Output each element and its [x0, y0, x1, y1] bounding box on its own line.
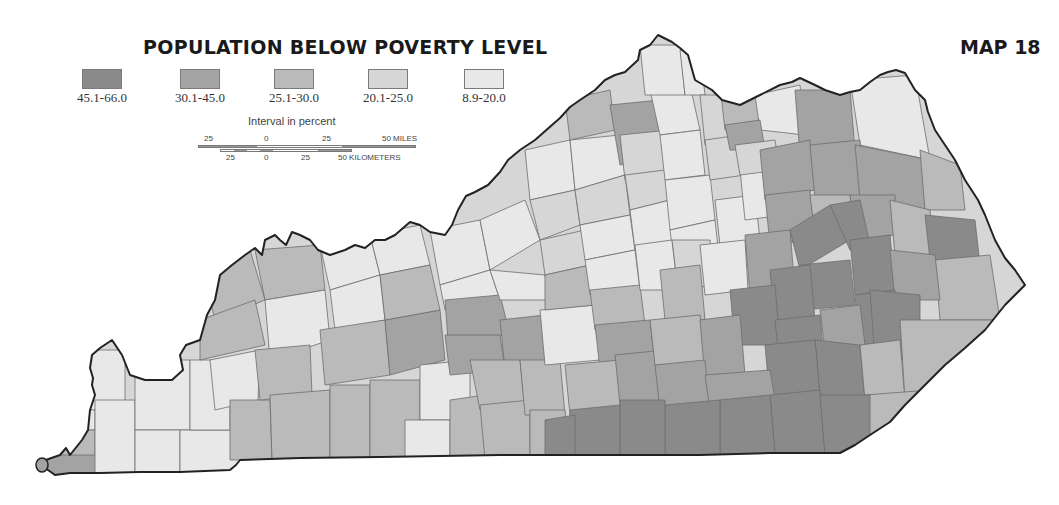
exclave-kentucky-bend [36, 458, 48, 472]
kentucky-county-map [0, 0, 1059, 505]
